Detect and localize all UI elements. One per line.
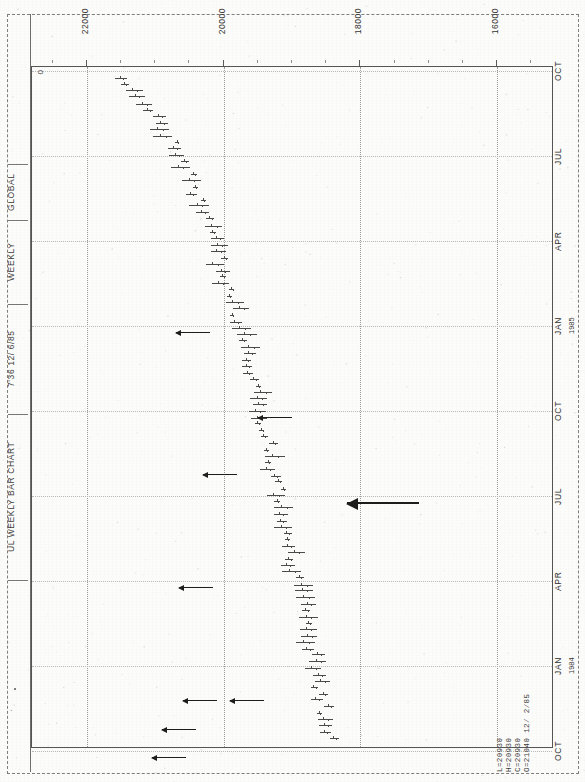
- ohlc-bar: [274, 507, 292, 508]
- ohlc-bar: [285, 559, 293, 560]
- price-tick-minor: [428, 60, 429, 63]
- ohlc-bar: [143, 110, 152, 111]
- ohlc-bar: [318, 719, 333, 720]
- ohlc-bar: [319, 694, 328, 695]
- ohlc-close-tick: [275, 443, 276, 445]
- price-tick-label: 18000: [353, 8, 363, 34]
- ohlc-open-tick: [311, 666, 312, 668]
- ohlc-close-tick: [316, 668, 317, 670]
- ohlc-open-tick: [239, 306, 240, 308]
- ohlc-bar: [182, 180, 201, 181]
- ohlc-close-tick: [316, 687, 317, 689]
- arrow-2-annotation: [203, 474, 237, 475]
- ohlc-bar: [121, 84, 129, 85]
- ohlc-open-tick: [247, 371, 248, 373]
- ohlc-open-tick: [272, 454, 273, 456]
- ohlc-bar: [181, 161, 188, 162]
- price-tick-minor: [291, 60, 292, 63]
- ohlc-close-tick: [204, 200, 205, 202]
- ohlc-close-tick: [164, 123, 165, 125]
- ohlc-open-tick: [190, 192, 191, 194]
- ohlc-bar: [317, 713, 323, 714]
- ohlc-close-tick: [277, 476, 278, 478]
- ohlc-open-tick: [212, 262, 213, 264]
- ohlc-open-tick: [289, 569, 290, 571]
- ohlc-open-tick: [324, 723, 325, 725]
- date-gridline: [32, 496, 552, 497]
- ohlc-bar: [295, 590, 313, 591]
- ohlc-close-tick: [320, 713, 321, 715]
- ohlc-open-tick: [306, 615, 307, 617]
- corner-mark: ·: [10, 706, 13, 715]
- ohlc-bar: [196, 212, 209, 213]
- ohlc-bar: [269, 443, 278, 444]
- arrow-1-annotation: [176, 332, 210, 333]
- ohlc-close-tick: [262, 398, 263, 400]
- ohlc-bar: [126, 90, 144, 91]
- ohlc-close-tick: [290, 565, 291, 567]
- ohlc-close-tick: [301, 577, 302, 579]
- ohlc-open-tick: [197, 203, 198, 205]
- ohlc-close-tick: [195, 174, 196, 176]
- price-tick-minor: [257, 60, 258, 63]
- ohlc-bar: [211, 251, 226, 252]
- ohlc-open-tick: [323, 717, 324, 719]
- price-tick-minor: [394, 60, 395, 63]
- ohlc-open-tick: [279, 512, 280, 514]
- ohlc-close-tick: [244, 340, 245, 342]
- ohlc-open-tick: [157, 127, 158, 129]
- ohlc-close-tick: [328, 719, 329, 721]
- ohlc-bar: [296, 642, 315, 643]
- ohlc-bar: [320, 732, 331, 733]
- ohlc-bar: [300, 629, 318, 630]
- ohlc-open-tick: [288, 557, 289, 559]
- ohlc-bar: [271, 476, 281, 477]
- last-quote-stamp: L=20930H=20930C=20930O=21040 12/ 2/85: [496, 706, 556, 772]
- ohlc-open-tick: [320, 679, 321, 681]
- ohlc-close-tick: [177, 148, 178, 150]
- scan-page: GLOBAL WEEKLY 7'36 12/ 6/85 UL WEEKLY BA…: [0, 0, 585, 782]
- ohlc-close-tick: [238, 322, 239, 324]
- title-strip: GLOBAL WEEKLY 7'36 12/ 6/85 UL WEEKLY BA…: [6, 14, 31, 772]
- arrow-4-annotation: [179, 587, 213, 588]
- ohlc-bar: [288, 552, 305, 553]
- price-tick-minor: [154, 60, 155, 63]
- ohlc-close-tick: [123, 78, 124, 80]
- ohlc-bar: [282, 546, 295, 547]
- ohlc-bar: [242, 360, 251, 361]
- ohlc-close-tick: [325, 681, 326, 683]
- ohlc-close-tick: [249, 373, 250, 375]
- ohlc-open-tick: [132, 88, 133, 90]
- ohlc-open-tick: [305, 608, 306, 610]
- ohlc-close-tick: [254, 347, 255, 349]
- ohlc-open-tick: [160, 121, 161, 123]
- date-axis-label: JUL: [553, 141, 575, 171]
- ohlc-close-tick: [284, 489, 285, 491]
- ohlc-bar: [274, 514, 288, 515]
- ohlc-close-tick: [224, 276, 225, 278]
- arrow-8-annotation: [230, 700, 264, 701]
- ohlc-bar: [311, 699, 323, 700]
- ohlc-open-tick: [201, 210, 202, 212]
- ohlc-close-tick: [309, 642, 310, 644]
- ohlc-open-tick: [287, 544, 288, 546]
- ohlc-close-tick: [321, 654, 322, 656]
- title-segment-ref: 7'36 12/ 6/85: [6, 306, 30, 412]
- ohlc-bar: [233, 308, 249, 309]
- ohlc-close-tick: [283, 514, 284, 516]
- date-gridline: [32, 411, 552, 412]
- ohlc-close-tick: [233, 315, 234, 317]
- ohlc-bar: [206, 264, 224, 265]
- ohlc-close-tick: [308, 610, 309, 612]
- ohlc-open-tick: [217, 243, 218, 245]
- ohlc-bar: [156, 123, 168, 124]
- ohlc-bar: [171, 167, 189, 168]
- date-axis: OCTJULAPRJANOCTJULAPRJANOCT19851984: [553, 66, 583, 746]
- ohlc-open-tick: [260, 390, 261, 392]
- ohlc-open-tick: [323, 692, 324, 694]
- date-axis-year-label: 1985: [567, 311, 583, 341]
- ohlc-bar: [313, 675, 326, 676]
- ohlc-bar: [274, 527, 292, 528]
- ohlc-open-tick: [211, 224, 212, 226]
- ohlc-close-tick: [196, 187, 197, 189]
